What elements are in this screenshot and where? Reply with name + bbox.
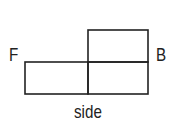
cell-bottom-left	[25, 62, 88, 94]
front-label: F	[9, 45, 18, 64]
cell-bottom-right	[88, 62, 148, 94]
caption-label: side	[74, 102, 102, 121]
back-label: B	[156, 45, 166, 64]
cell-top-right	[88, 30, 148, 62]
